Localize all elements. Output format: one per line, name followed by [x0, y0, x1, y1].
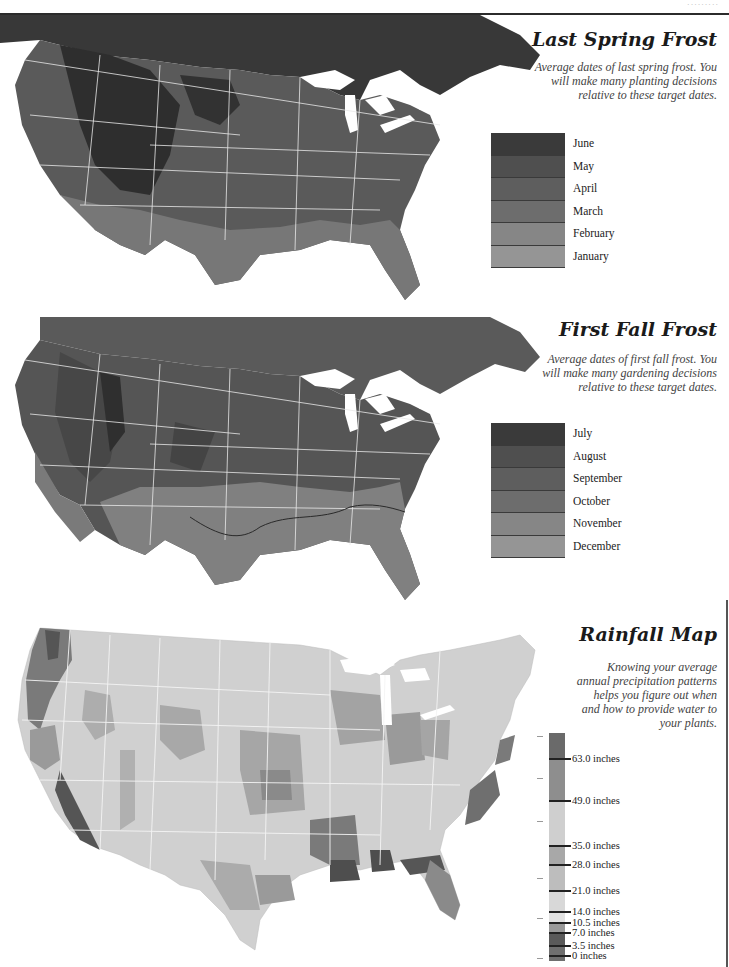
rainfall-desc-line: annual precipitation patterns	[577, 674, 717, 688]
tick-28	[549, 864, 571, 866]
legend-row-february: February	[491, 223, 661, 246]
legend-row-april: April	[491, 178, 661, 201]
rain-label: 0 inches	[572, 950, 607, 961]
rain-seg	[549, 864, 565, 890]
tick-35	[549, 845, 571, 847]
rainfall-map	[0, 620, 560, 967]
legend-row-july: July	[491, 423, 661, 446]
legend-swatch	[491, 201, 565, 224]
fall-frost-desc-line: will make many gardening decisions	[542, 366, 717, 380]
minor-tick	[537, 736, 543, 737]
rain-seg	[549, 845, 565, 864]
legend-label: November	[573, 517, 622, 529]
fall-frost-map	[0, 312, 560, 607]
fall-frost-legend: July August September October November D…	[491, 423, 661, 558]
rainfall-legend-bar	[549, 733, 565, 961]
legend-swatch	[491, 178, 565, 201]
minor-tick	[537, 821, 543, 822]
tick-49	[549, 800, 571, 802]
tick-7	[549, 932, 571, 934]
fall-frost-map-svg	[0, 312, 560, 607]
legend-row-january: January	[491, 246, 661, 269]
legend-row-november: November	[491, 513, 661, 536]
rain-seg	[549, 800, 565, 845]
legend-row-october: October	[491, 491, 661, 514]
legend-label: September	[573, 472, 622, 484]
legend-swatch	[491, 423, 565, 446]
rain-seg	[549, 932, 565, 945]
legend-label: January	[573, 250, 609, 262]
rain-label: 28.0 inches	[572, 859, 620, 870]
rainfall-title: Rainfall Map	[579, 623, 717, 645]
legend-row-december: December	[491, 536, 661, 559]
legend-swatch	[491, 513, 565, 536]
legend-label: October	[573, 495, 610, 507]
legend-swatch	[491, 133, 565, 156]
rainfall-desc-line: and how to provide water to	[577, 702, 717, 716]
rain-label: 14.0 inches	[572, 906, 620, 917]
legend-swatch	[491, 446, 565, 469]
rainfall-description: Knowing your average annual precipitatio…	[577, 660, 717, 730]
spring-frost-map-svg	[0, 15, 560, 305]
tick-0	[549, 955, 571, 957]
legend-row-august: August	[491, 446, 661, 469]
legend-swatch	[491, 246, 565, 269]
rainfall-desc-line: Knowing your average	[577, 660, 717, 674]
rainfall-desc-line: your plants.	[577, 716, 717, 730]
rain-label: 49.0 inches	[572, 795, 620, 806]
legend-label: August	[573, 450, 606, 462]
fall-frost-title: First Fall Frost	[559, 318, 717, 340]
minor-tick	[537, 958, 543, 959]
rainfall-legend: 63.0 inches 49.0 inches 35.0 inches 28.0…	[549, 733, 729, 961]
legend-label: April	[573, 182, 597, 194]
legend-label: March	[573, 205, 603, 217]
legend-swatch	[491, 156, 565, 179]
legend-label: May	[573, 160, 594, 172]
fall-frost-desc-line: Average dates of first fall frost. You	[542, 352, 717, 366]
spring-frost-desc-line: Average dates of last spring frost. You	[535, 60, 717, 74]
rain-seg	[549, 911, 565, 922]
legend-label: February	[573, 227, 615, 239]
spring-frost-map	[0, 15, 560, 305]
rain-label: 35.0 inches	[572, 840, 620, 851]
legend-swatch	[491, 223, 565, 246]
legend-swatch	[491, 536, 565, 559]
minor-tick	[537, 878, 543, 879]
rainfall-desc-line: helps you figure out when	[577, 688, 717, 702]
minor-tick	[537, 918, 543, 919]
rain-seg	[549, 922, 565, 932]
tick-14	[549, 911, 571, 913]
legend-swatch	[491, 468, 565, 491]
tick-3-5	[549, 945, 571, 947]
spring-frost-title: Last Spring Frost	[532, 28, 717, 50]
rain-seg	[549, 890, 565, 911]
legend-row-may: May	[491, 156, 661, 179]
spring-frost-desc-line: relative to these target dates.	[535, 88, 717, 102]
rain-label: 7.0 inches	[572, 927, 615, 938]
legend-row-june: June	[491, 133, 661, 156]
rainfall-map-svg	[0, 620, 560, 967]
rain-seg	[549, 758, 565, 800]
legend-label: June	[573, 137, 594, 149]
legend-label: July	[573, 427, 592, 439]
tick-10-5	[549, 922, 571, 924]
legend-swatch	[491, 491, 565, 514]
right-rule	[726, 600, 728, 967]
running-head: ·········	[687, 0, 719, 9]
tick-63	[549, 758, 571, 760]
spring-frost-legend: June May April March February January	[491, 133, 661, 268]
legend-row-september: September	[491, 468, 661, 491]
spring-frost-description: Average dates of last spring frost. You …	[535, 60, 717, 102]
legend-label: December	[573, 540, 620, 552]
rain-seg	[549, 945, 565, 961]
tick-21	[549, 890, 571, 892]
legend-row-march: March	[491, 201, 661, 224]
rain-label: 63.0 inches	[572, 753, 620, 764]
fall-frost-description: Average dates of first fall frost. You w…	[542, 352, 717, 394]
minor-tick	[537, 778, 543, 779]
spring-frost-desc-line: will make many planting decisions	[535, 74, 717, 88]
rain-seg	[549, 733, 565, 758]
rain-label: 21.0 inches	[572, 885, 620, 896]
fall-frost-desc-line: relative to these target dates.	[542, 380, 717, 394]
